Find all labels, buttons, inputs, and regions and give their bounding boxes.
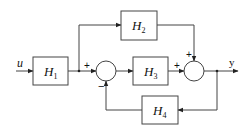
sum1-minus-sign: − xyxy=(98,80,104,92)
sum2-plus-top-sign: + xyxy=(186,49,192,60)
input-label: u xyxy=(17,56,23,70)
block-h2-label: H2 xyxy=(131,18,145,35)
block-h4-label: H4 xyxy=(152,103,166,120)
output-branch-dot xyxy=(216,70,219,73)
feedback-to-h4-line xyxy=(178,71,217,110)
summing-junction-2 xyxy=(184,61,204,81)
block-diagram: H1 H2 H3 H4 u y + − + + xyxy=(0,0,247,132)
output-label: y xyxy=(229,56,235,68)
sum1-plus-sign: + xyxy=(84,60,90,71)
sum2-plus-left-sign: + xyxy=(174,60,180,71)
summing-junction-1 xyxy=(96,61,116,81)
branch-point-dot xyxy=(78,70,81,73)
block-h3-label: H3 xyxy=(143,64,157,81)
block-h1-label: H1 xyxy=(43,64,57,81)
